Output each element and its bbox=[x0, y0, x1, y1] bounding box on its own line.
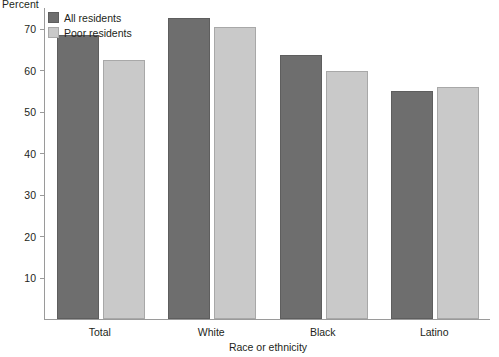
x-axis-label-latino: Latino bbox=[420, 326, 449, 338]
x-axis-line bbox=[44, 319, 490, 320]
x-axis-label-black: Black bbox=[310, 326, 336, 338]
bar-total-all bbox=[57, 35, 99, 319]
x-axis-label-total: Total bbox=[89, 326, 111, 338]
bar-black-poor bbox=[326, 71, 368, 319]
legend-label: All residents bbox=[64, 12, 121, 24]
plot-area: 10203040506070 bbox=[44, 8, 490, 320]
x-axis-label-white: White bbox=[198, 326, 225, 338]
legend-swatch-icon bbox=[48, 27, 59, 38]
bar-latino-all bbox=[391, 91, 433, 319]
chart-legend: All residentsPoor residents bbox=[48, 11, 132, 41]
legend-item-poor: Poor residents bbox=[48, 26, 132, 39]
bar-total-poor bbox=[103, 60, 145, 319]
bars-layer bbox=[44, 8, 490, 319]
y-axis-tick-label: 10 bbox=[24, 272, 36, 284]
x-axis-title: Race or ethnicity bbox=[229, 341, 307, 353]
y-axis-tick-label: 50 bbox=[24, 106, 36, 118]
legend-label: Poor residents bbox=[64, 27, 132, 39]
y-axis-unit-title: Percent bbox=[2, 0, 39, 10]
legend-item-all: All residents bbox=[48, 11, 132, 24]
bar-black-all bbox=[280, 55, 322, 319]
bar-latino-poor bbox=[437, 87, 479, 319]
y-axis-tick-label: 20 bbox=[24, 231, 36, 243]
legend-swatch-icon bbox=[48, 12, 59, 23]
y-axis-tick-label: 70 bbox=[24, 23, 36, 35]
y-axis-tick-label: 30 bbox=[24, 189, 36, 201]
bar-white-all bbox=[168, 18, 210, 319]
y-axis-tick-label: 40 bbox=[24, 148, 36, 160]
bar-chart: Percent 10203040506070 TotalWhiteBlackLa… bbox=[0, 0, 499, 357]
bar-white-poor bbox=[214, 27, 256, 319]
y-axis-tick-label: 60 bbox=[24, 65, 36, 77]
